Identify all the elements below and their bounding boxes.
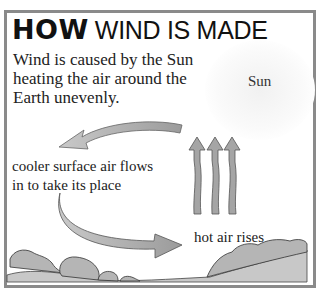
intro-line: heating the air around the (13, 69, 213, 88)
sun-label: Sun (248, 73, 271, 90)
cool-air-arrow-top-icon (59, 122, 182, 149)
cooler-air-label: cooler surface air flows in to take its … (12, 157, 212, 195)
cooler-line: cooler surface air flows (12, 157, 212, 176)
intro-text: Wind is caused by the Sun heating the ai… (13, 50, 213, 107)
cooler-line: in to take its place (12, 176, 212, 195)
title-rest: WIND IS MADE (95, 16, 268, 44)
intro-line: Earth unevenly. (13, 88, 213, 107)
title-how: HOW (12, 14, 89, 45)
cool-air-arrow-bottom-icon (59, 193, 182, 258)
page-title: HOWWIND IS MADE (12, 14, 268, 45)
hot-air-label: hot air rises (194, 229, 264, 246)
intro-line: Wind is caused by the Sun (13, 50, 213, 69)
